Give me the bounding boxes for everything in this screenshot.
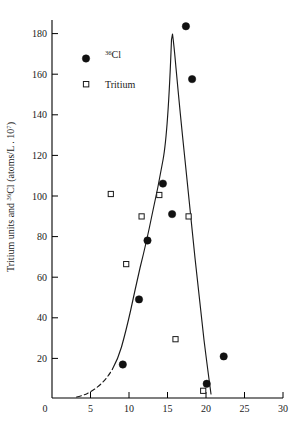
data-point-tritium bbox=[139, 214, 144, 219]
data-point-tritium bbox=[201, 388, 206, 393]
x-tick-label: 20 bbox=[201, 403, 211, 414]
data-point-cl36 bbox=[203, 380, 210, 387]
data-point-cl36 bbox=[135, 296, 142, 303]
legend-marker-tritium-icon bbox=[83, 82, 88, 87]
scatter-chart: 20 40 60 80 100 120 140 160 180 0 5 10 1… bbox=[0, 0, 297, 427]
y-axis-title-post: ) bbox=[5, 122, 17, 125]
y-axis-title-mid: Cl (atoms/L . 10 bbox=[5, 129, 17, 194]
x-tick-label: 10 bbox=[124, 403, 134, 414]
data-point-cl36 bbox=[188, 75, 195, 82]
x-tick-label: 25 bbox=[240, 403, 250, 414]
legend-label-tritium: Tritium bbox=[105, 79, 135, 90]
y-tick-label: 80 bbox=[37, 231, 47, 242]
y-tick-label: 120 bbox=[32, 150, 47, 161]
legend-marker-cl36-icon bbox=[82, 55, 89, 62]
data-point-tritium bbox=[124, 262, 129, 267]
data-point-cl36 bbox=[144, 237, 151, 244]
data-point-cl36 bbox=[159, 180, 166, 187]
data-point-cl36 bbox=[119, 361, 126, 368]
legend-cl36-text: Cl bbox=[112, 49, 122, 60]
x-tick-label: 30 bbox=[278, 403, 288, 414]
data-point-tritium bbox=[173, 337, 178, 342]
x-tick-label: 0 bbox=[43, 403, 48, 414]
x-tick-label: 5 bbox=[88, 403, 93, 414]
y-tick-label: 100 bbox=[32, 191, 47, 202]
data-point-cl36 bbox=[220, 353, 227, 360]
y-tick-label: 20 bbox=[37, 353, 47, 364]
data-point-tritium bbox=[186, 214, 191, 219]
data-point-cl36 bbox=[168, 210, 175, 217]
y-tick-label: 60 bbox=[37, 272, 47, 283]
data-point-tritium bbox=[157, 192, 162, 197]
y-tick-label: 160 bbox=[32, 69, 47, 80]
y-axis-title-pre: Tritium units and bbox=[5, 200, 16, 272]
data-point-cl36 bbox=[182, 23, 189, 30]
data-point-tritium bbox=[108, 191, 113, 196]
y-tick-label: 140 bbox=[32, 109, 47, 120]
y-tick-label: 180 bbox=[32, 28, 47, 39]
x-tick-label: 15 bbox=[163, 403, 173, 414]
y-tick-label: 40 bbox=[37, 312, 47, 323]
